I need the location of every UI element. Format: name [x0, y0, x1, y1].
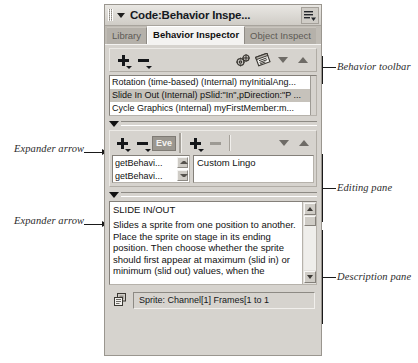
list-item[interactable]: getBehavi... [113, 169, 189, 182]
drag-gripper-icon[interactable] [108, 9, 113, 21]
description-scrollbar[interactable] [302, 202, 316, 284]
editing-fields: getBehavi... getBehavi... Custom Lingo [110, 155, 316, 186]
event-list[interactable]: getBehavi... getBehavi... [112, 155, 190, 183]
annotation-editing-pane: Editing pane [337, 182, 392, 193]
leader-expander-bottom [84, 224, 104, 225]
dropdown-triangle-icon [125, 149, 131, 152]
description-text-area: SLIDE IN/OUT Slides a sprite from one po… [110, 202, 302, 284]
event-label: getBehavi... [113, 171, 163, 181]
dropdown-triangle-icon [146, 66, 152, 69]
minus-icon [137, 142, 148, 145]
description-pane: SLIDE IN/OUT Slides a sprite from one po… [109, 201, 317, 285]
plus-icon [118, 55, 129, 66]
window-title: Code:Behavior Inspe... [130, 9, 301, 21]
expander-arrow-editing-pane[interactable] [109, 118, 317, 129]
triangle-down-icon [109, 192, 119, 198]
triangle-down-icon [109, 121, 119, 127]
editing-pane: Eve [109, 130, 317, 187]
scrollbar-thumb[interactable] [304, 216, 316, 226]
annotation-expander-arrow-bottom: Expander arrow [14, 215, 84, 226]
add-event-button[interactable] [112, 134, 132, 153]
list-item[interactable]: Cycle Graphics (Internal) myFirstMember:… [110, 102, 316, 115]
events-button[interactable]: Eve [152, 136, 176, 151]
leader-behavior-toolbar-v [322, 56, 323, 84]
move-action-down-button[interactable] [274, 134, 294, 153]
behavior-settings-button[interactable] [233, 51, 253, 70]
panel-body: Rotation (time-based) (Internal) myIniti… [105, 45, 321, 311]
move-behavior-down-button[interactable] [273, 51, 293, 70]
editing-toolbar-separator [229, 135, 231, 151]
annotation-behavior-toolbar: Behavior toolbar [337, 61, 411, 72]
tab-behavior-inspector[interactable]: Behavior Inspector [147, 26, 245, 44]
expander-rule [121, 121, 317, 126]
gears-icon [235, 53, 252, 68]
remove-action-button[interactable] [205, 134, 225, 153]
scroll-up-button[interactable] [304, 203, 316, 215]
scrollbar-track[interactable] [304, 216, 316, 270]
annotation-expander-arrow-top: Expander arrow [14, 143, 84, 154]
sprite-status-text: Sprite: Channel[1] Frames[1 to 1 [133, 292, 315, 309]
panel-menu-glyph [304, 10, 316, 21]
scroll-down-icon [180, 174, 188, 177]
script-window-icon [255, 53, 271, 67]
leader-description-pane-v [322, 230, 323, 324]
event-label: getBehavi... [113, 158, 163, 168]
scroll-up-button[interactable] [177, 157, 188, 168]
behavior-inspector-window: Code:Behavior Inspe... Library Behavior … [104, 4, 322, 356]
behavior-list[interactable]: Rotation (time-based) (Internal) myIniti… [109, 75, 317, 116]
annotation-description-pane: Description pane [337, 271, 411, 282]
dropdown-triangle-icon [145, 149, 151, 152]
sprite-layers-icon[interactable] [113, 292, 129, 308]
behavior-list-scroll-gutter[interactable] [310, 76, 316, 115]
title-bar: Code:Behavior Inspe... [105, 5, 321, 26]
triangle-down-icon [278, 57, 288, 63]
move-action-up-button[interactable] [294, 134, 314, 153]
list-item[interactable]: getBehavi... [113, 156, 189, 169]
script-window-button[interactable] [253, 51, 273, 70]
description-body: Slides a sprite from one position to ano… [113, 219, 299, 277]
plus-icon [190, 138, 201, 149]
action-value-field[interactable]: Custom Lingo [193, 155, 314, 183]
dropdown-triangle-icon [126, 66, 132, 69]
add-behavior-button[interactable] [113, 51, 133, 70]
scroll-down-button[interactable] [304, 271, 316, 283]
leader-behavior-toolbar [322, 67, 336, 68]
scroll-up-icon [180, 161, 188, 164]
scroll-down-button[interactable] [177, 170, 188, 181]
editing-toolbar-divider [179, 133, 182, 153]
sprite-layers-glyph [113, 292, 129, 308]
leader-editing-pane [322, 188, 336, 189]
plus-icon [117, 138, 128, 149]
leader-editing-pane-v [322, 154, 323, 222]
scroll-up-icon [307, 207, 313, 211]
expander-arrow-description-pane[interactable] [109, 189, 317, 200]
list-item[interactable]: Slide In Out (Internal) pSlid:"In",pDire… [110, 89, 316, 102]
editing-toolbar: Eve [110, 131, 316, 155]
leader-expander-top [84, 152, 104, 153]
remove-event-button[interactable] [132, 134, 152, 153]
tab-library[interactable]: Library [107, 27, 147, 44]
behavior-toolbar [109, 48, 317, 72]
status-bar: Sprite: Channel[1] Frames[1 to 1 [109, 289, 317, 311]
move-behavior-up-button[interactable] [293, 51, 313, 70]
scroll-down-icon [307, 275, 313, 279]
triangle-up-icon [299, 140, 309, 146]
tab-object-inspector[interactable]: Object Inspect [245, 27, 316, 44]
triangle-down-icon [279, 140, 289, 146]
collapse-triangle-icon[interactable] [117, 13, 125, 18]
description-title: SLIDE IN/OUT [113, 204, 299, 215]
minus-icon [210, 142, 221, 145]
triangle-up-icon [298, 57, 308, 63]
minus-icon [138, 59, 149, 62]
list-item[interactable]: Rotation (time-based) (Internal) myIniti… [110, 76, 316, 89]
expander-rule [121, 192, 317, 197]
leader-description-pane [322, 277, 336, 278]
panel-menu-icon[interactable] [301, 7, 319, 24]
add-action-button[interactable] [185, 134, 205, 153]
remove-behavior-button[interactable] [133, 51, 153, 70]
tab-strip: Library Behavior Inspector Object Inspec… [105, 26, 321, 45]
dropdown-triangle-icon [198, 149, 204, 152]
